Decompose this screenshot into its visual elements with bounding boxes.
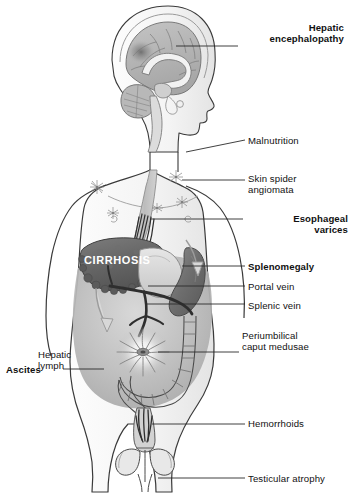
label-hemorrhoids: Hemorrhoids: [248, 418, 348, 429]
label-periumbilical-caput-medusae: Periumbilical caput medusae: [242, 330, 348, 353]
label-hepatic-encephalopathy: Hepatic encephalopathy: [216, 22, 344, 45]
label-splenic-vein: Splenic vein: [248, 300, 348, 311]
label-skin-spider-angiomata: Skin spider angiomata: [248, 173, 348, 196]
label-splenomegaly: Splenomegaly: [248, 261, 348, 272]
label-hepatic-lymph: Hepatic lymph: [38, 349, 100, 372]
label-malnutrition: Malnutrition: [248, 135, 348, 146]
rectum: [134, 408, 155, 452]
cirrhosis-complications-figure: Hepatic encephalopathyMalnutritionSkin s…: [0, 0, 350, 497]
label-esophageal-varices: Esophageal varices: [246, 213, 348, 236]
cirrhosis-organ-label: CIRRHOSIS: [84, 255, 164, 266]
umbilicus: [137, 348, 149, 355]
leader-malnutrition: [186, 140, 245, 152]
head-sagittal-section: [112, 6, 215, 176]
label-testicular-atrophy: Testicular atrophy: [248, 473, 348, 484]
label-portal-vein: Portal vein: [248, 281, 348, 292]
